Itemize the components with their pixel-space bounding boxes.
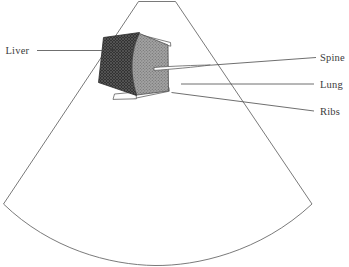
label-lung: Lung [320, 79, 344, 90]
leader-line-spine [211, 58, 317, 66]
diagram-canvas: Liver Spine Lung Ribs [0, 0, 349, 267]
ultrasound-diagram: Liver Spine Lung Ribs [0, 0, 349, 267]
label-ribs: Ribs [320, 106, 340, 117]
label-spine: Spine [320, 52, 345, 63]
label-liver: Liver [6, 45, 30, 56]
